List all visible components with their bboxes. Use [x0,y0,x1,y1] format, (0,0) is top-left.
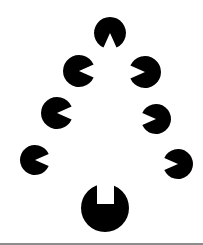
bottom-disc-notch [97,183,114,204]
left-disc-row-2 [63,55,94,87]
illusory-contour-figure [0,0,203,245]
bottom-disc [81,183,129,232]
left-disc-row-3 [41,97,72,129]
right-disc-row-3 [142,104,171,134]
right-disc-row-2 [130,56,161,88]
top-disc [94,17,126,48]
right-disc-row-4 [164,149,193,179]
left-disc-row-4 [20,145,49,175]
